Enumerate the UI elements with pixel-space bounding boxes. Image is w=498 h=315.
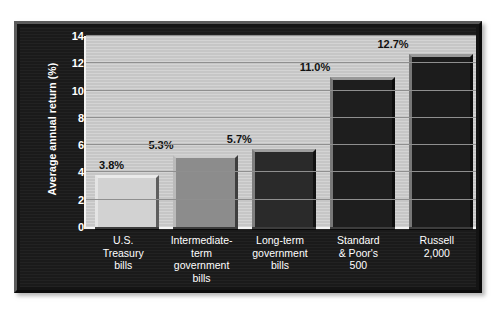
y-tick-label: 10 [54, 85, 84, 96]
bar [409, 54, 473, 227]
x-category-label: Standard & Poor's 500 [319, 234, 397, 272]
chart-frame-inner: Average annual return (%) 14121086420 3.… [20, 27, 476, 287]
x-category-label: Intermediate- term government bills [162, 234, 240, 284]
bar [330, 77, 394, 227]
x-category-label: Russell 2,000 [398, 234, 476, 259]
bar-value-label: 3.8% [99, 160, 124, 171]
gridline [86, 171, 476, 172]
y-tick-label: 6 [54, 140, 84, 151]
bar [252, 149, 316, 227]
chart-frame: Average annual return (%) 14121086420 3.… [14, 21, 482, 293]
x-category-label: U.S. Treasury bills [84, 234, 162, 272]
plot-area: 3.8%5.3%5.7%11.0%12.7% [84, 36, 476, 229]
x-category-label: Long-term government bills [241, 234, 319, 272]
y-tick-label: 14 [54, 31, 84, 42]
gridline [86, 117, 476, 118]
bar-value-label: 5.3% [148, 140, 173, 151]
bar [173, 155, 237, 227]
y-tick-label: 2 [54, 194, 84, 205]
y-tick-label: 0 [54, 222, 84, 233]
gridline [86, 144, 476, 145]
gridline [86, 62, 476, 63]
y-axis-tick-labels: 14121086420 [54, 27, 84, 287]
y-tick-label: 12 [54, 58, 84, 69]
y-tick-label: 8 [54, 112, 84, 123]
gridline [86, 199, 476, 200]
y-tick-label: 4 [54, 167, 84, 178]
bar [95, 175, 159, 227]
x-axis-category-labels: U.S. Treasury billsIntermediate- term go… [84, 234, 476, 294]
bar-value-label: 11.0% [300, 62, 331, 73]
bar-value-label: 12.7% [377, 39, 408, 50]
chart-screenshot: Average annual return (%) 14121086420 3.… [0, 0, 498, 315]
gridline [86, 35, 476, 36]
gridline [86, 90, 476, 91]
